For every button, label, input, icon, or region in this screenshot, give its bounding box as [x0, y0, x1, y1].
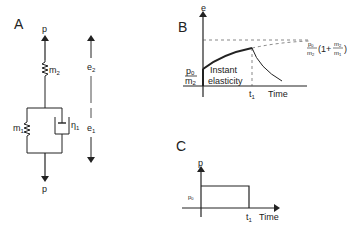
- c-load-pulse: [201, 186, 249, 208]
- b-recovery-curve: [252, 48, 282, 81]
- spring-m1-icon: [24, 122, 30, 136]
- b-y-axis-label: e: [201, 3, 206, 13]
- spring-m1-label: m1: [13, 123, 25, 134]
- b-annotation-line2: elasticity: [208, 76, 243, 86]
- viscoelastic-model-figure: A p m2 m1 η1 p e2 e1 B e: [0, 0, 354, 233]
- c-x-axis-label: Time: [259, 212, 279, 222]
- b-creep-continuation: [252, 41, 310, 48]
- panel-b-label: B: [178, 19, 187, 35]
- b-x-axis-label: Time: [268, 89, 288, 99]
- strain-e1-label: e1: [87, 123, 96, 134]
- b-asymptote-den: m2: [307, 50, 315, 57]
- panel-c: C p p0 t1 Time: [176, 138, 279, 223]
- spring-m2-icon: [42, 60, 48, 78]
- b-factor-num: m2: [334, 41, 342, 48]
- panel-a-label: A: [14, 16, 24, 32]
- b-t1-label: t1: [249, 89, 256, 100]
- load-top-label: p: [42, 24, 47, 34]
- dashpot-eta1-label: η1: [71, 120, 80, 131]
- c-level-label: p0: [188, 194, 194, 201]
- panel-a: A p m2 m1 η1 p e2 e1: [13, 16, 96, 194]
- c-t1-label: t1: [246, 212, 253, 223]
- b-asymptote-open: (1+: [318, 44, 331, 54]
- panel-c-label: C: [176, 138, 186, 154]
- b-annotation-line1: Instant: [210, 65, 238, 75]
- b-asymptote-close: ): [344, 44, 347, 54]
- b-asymptote-num: p0: [308, 41, 314, 48]
- b-initial-strain-num: p0: [186, 66, 195, 76]
- b-initial-strain-den: m2: [185, 76, 197, 86]
- c-y-axis-label: p: [198, 158, 203, 168]
- b-factor-den: m1: [334, 50, 342, 57]
- panel-b: B e p0 m2 Instant elasticity t1 Time p0 …: [178, 3, 347, 100]
- load-bottom-label: p: [42, 184, 47, 194]
- strain-e2-label: e2: [87, 62, 96, 73]
- spring-m2-label: m2: [49, 65, 61, 76]
